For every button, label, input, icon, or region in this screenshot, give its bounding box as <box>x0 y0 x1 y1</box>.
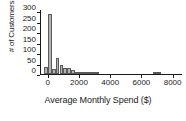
bar-series <box>40 10 182 74</box>
y-tick-label: 150 <box>12 36 36 44</box>
y-tick-label: 200 <box>12 25 36 33</box>
y-tick-label: 0 <box>12 67 36 75</box>
y-tick-mark <box>37 65 40 66</box>
y-tick-mark <box>37 12 40 13</box>
y-tick-mark <box>37 44 40 45</box>
y-tick-label: 250 <box>12 15 36 23</box>
y-tick-label: 50 <box>12 57 36 65</box>
x-axis-title: Average Monthly Spend ($) <box>18 95 178 105</box>
histogram-chart: # of Customers 050100150200250300 020004… <box>0 0 186 121</box>
y-tick-label: 100 <box>12 46 36 54</box>
histogram-bar <box>48 14 52 74</box>
histogram-bar <box>153 72 161 74</box>
x-tick-label: 8000 <box>153 78 186 87</box>
y-tick-label: 300 <box>12 4 36 12</box>
y-axis-tick-labels: 050100150200250300 <box>12 6 36 75</box>
y-tick-mark <box>37 23 40 24</box>
y-tick-mark <box>37 33 40 34</box>
x-axis-tick-labels: 02000400060008000 <box>40 78 182 90</box>
histogram-bar <box>95 72 99 74</box>
y-tick-mark <box>37 75 40 76</box>
plot-area <box>40 10 182 75</box>
y-tick-mark <box>37 54 40 55</box>
